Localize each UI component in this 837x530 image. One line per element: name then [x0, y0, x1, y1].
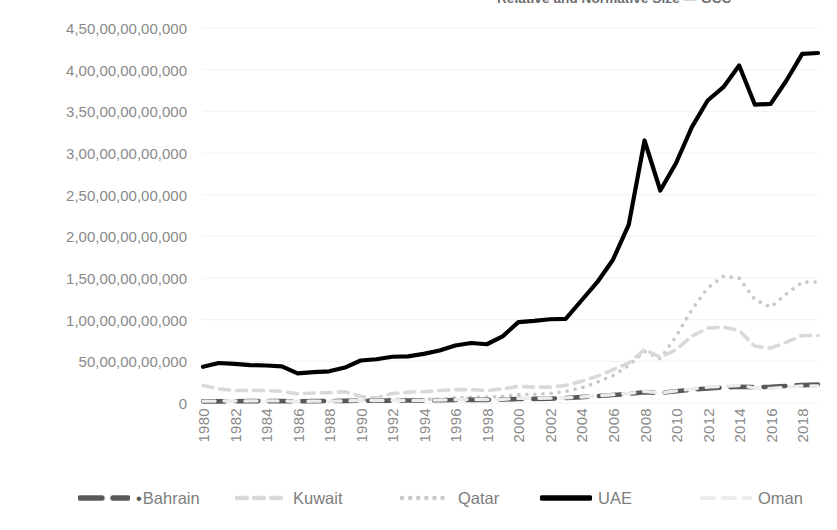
- legend-label: UAE: [598, 490, 632, 507]
- x-axis-tick: 2004: [574, 408, 589, 443]
- x-axis-tick: 2010: [669, 408, 684, 443]
- legend-swatch-qatar-icon: [400, 491, 452, 505]
- x-axis-tick: 1996: [448, 408, 463, 443]
- legend-item-kuwait[interactable]: Kuwait: [235, 483, 343, 513]
- x-axis-tick: 2008: [638, 408, 653, 443]
- y-axis-tick: 50,00,00,00,000: [7, 354, 187, 369]
- x-axis-tick: 2006: [606, 408, 621, 443]
- legend-swatch-bahrain-icon: [78, 491, 130, 505]
- y-axis-labels: 4,50,00,00,00,0004,00,00,00,00,0003,50,0…: [0, 0, 187, 530]
- legend-item-qatar[interactable]: Qatar: [400, 483, 499, 513]
- y-axis-tick: 3,50,00,00,00,000: [7, 104, 187, 119]
- x-axis-tick: 1994: [417, 408, 432, 443]
- x-axis-tick: 1988: [322, 408, 337, 443]
- y-axis-tick: 4,00,00,00,00,000: [7, 63, 187, 78]
- x-axis-tick: 1998: [480, 408, 495, 443]
- legend-label: Kuwait: [293, 490, 343, 507]
- x-axis-labels: 1980198219841986198819901992199419961998…: [203, 406, 818, 470]
- chart-title-clipped: Relative and Normative Size — GCC: [497, 0, 837, 5]
- plot-svg: [203, 28, 818, 403]
- series-line-kuwait: [203, 327, 818, 398]
- x-axis-tick: 2012: [701, 408, 716, 443]
- x-axis-tick: 1980: [196, 408, 211, 443]
- legend-swatch-kuwait-icon: [235, 491, 287, 505]
- legend-swatch-uae-icon: [540, 491, 592, 505]
- y-axis-tick: 1,00,00,00,00,000: [7, 313, 187, 328]
- y-axis-tick: 2,00,00,00,00,000: [7, 229, 187, 244]
- x-axis-tick: 1992: [385, 408, 400, 443]
- legend-label: Bahrain: [143, 490, 200, 507]
- x-axis-tick: 2002: [543, 408, 558, 443]
- x-axis-tick: 1990: [354, 408, 369, 443]
- plot-area: [203, 28, 818, 403]
- x-axis-tick: 2014: [732, 408, 747, 443]
- legend-label: Qatar: [458, 490, 499, 507]
- y-axis-tick: 4,50,00,00,00,000: [7, 21, 187, 36]
- legend-item-oman[interactable]: Oman: [700, 483, 803, 513]
- legend-item-uae[interactable]: UAE: [540, 483, 632, 513]
- legend-swatch-oman-icon: [700, 491, 752, 505]
- y-axis-tick: 2,50,00,00,00,000: [7, 188, 187, 203]
- legend-item-bahrain[interactable]: •Bahrain: [78, 483, 200, 513]
- series-line-uae: [203, 53, 818, 373]
- x-axis-tick: 2018: [795, 408, 810, 443]
- y-axis-tick: 1,50,00,00,00,000: [7, 271, 187, 286]
- x-axis-tick: 1986: [291, 408, 306, 443]
- y-axis-tick: 0: [7, 396, 187, 411]
- x-axis-tick: 2000: [511, 408, 526, 443]
- x-axis-tick: 2016: [764, 408, 779, 443]
- x-axis-tick: 1984: [259, 408, 274, 443]
- legend-label: Oman: [758, 490, 803, 507]
- y-axis-tick: 3,00,00,00,00,000: [7, 146, 187, 161]
- x-axis-tick: 1982: [228, 408, 243, 443]
- legend-prefix-dot-icon: •: [136, 490, 142, 507]
- series-line-qatar: [203, 276, 818, 401]
- chart-legend: •BahrainKuwaitQatarUAEOman: [0, 483, 837, 523]
- chart-container: Relative and Normative Size — GCC 4,50,0…: [0, 0, 837, 530]
